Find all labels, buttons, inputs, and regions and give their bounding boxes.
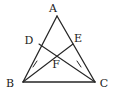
label-e: E bbox=[74, 32, 82, 45]
label-d: D bbox=[25, 34, 34, 47]
side-ac-line bbox=[57, 16, 95, 82]
tick-mark-cf-icon bbox=[77, 61, 81, 67]
geometry-canvas: A B C D E F bbox=[0, 0, 113, 93]
label-c: C bbox=[100, 77, 108, 90]
label-b: B bbox=[6, 77, 14, 90]
geometry-figure: A B C D E F bbox=[0, 0, 113, 93]
side-ab-line bbox=[23, 16, 57, 82]
label-a: A bbox=[48, 2, 58, 15]
label-f: F bbox=[52, 58, 60, 71]
